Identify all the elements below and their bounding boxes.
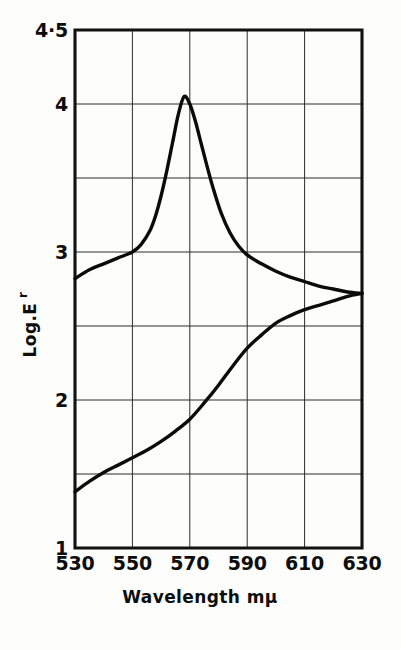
spectral-chart: 530550570590610630 12344·5 Wavelength mμ…	[0, 0, 401, 650]
y-tick-label: 3	[55, 241, 68, 263]
y-axis-title: Log.E	[20, 303, 40, 358]
x-tick-label: 550	[113, 552, 152, 574]
x-tick-label: 590	[228, 552, 267, 574]
y-tick-label: 4	[55, 93, 68, 115]
y-axis-title-subscript: r	[16, 292, 30, 298]
x-tick-label: 630	[342, 552, 381, 574]
y-tick-label: 4·5	[35, 19, 68, 41]
x-tick-label: 610	[285, 552, 324, 574]
y-tick-label: 2	[55, 389, 68, 411]
x-axis-title: Wavelength mμ	[122, 587, 277, 607]
figure-root: 530550570590610630 12344·5 Wavelength mμ…	[0, 0, 401, 650]
y-tick-label: 1	[55, 537, 68, 559]
x-tick-label: 570	[170, 552, 209, 574]
